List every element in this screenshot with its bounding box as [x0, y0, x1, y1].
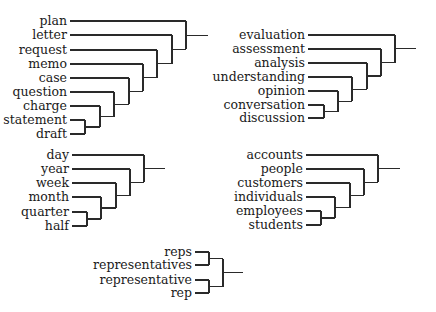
leaf-label: statement — [3, 112, 67, 127]
leaf-label: draft — [36, 126, 67, 141]
cluster-documents: planletterrequestmemocasequestioncharges… — [3, 13, 208, 141]
leaf-label: question — [13, 84, 67, 99]
leaf-label: plan — [39, 13, 67, 28]
cluster-people: accountspeoplecustomersindividualsemploy… — [234, 147, 400, 232]
leaf-label: memo — [28, 56, 67, 71]
leaf-label: customers — [237, 175, 303, 190]
leaf-label: evaluation — [239, 27, 305, 42]
leaf-label: request — [19, 42, 67, 57]
leaf-label: students — [249, 217, 303, 232]
leaf-label: understanding — [213, 69, 305, 84]
leaf-label: employees — [236, 203, 303, 218]
leaf-label: half — [45, 218, 71, 233]
leaf-label: representatives — [93, 257, 192, 272]
leaf-label: charge — [23, 98, 67, 113]
leaf-label: accounts — [246, 147, 303, 162]
leaf-label: month — [28, 189, 69, 204]
leaf-label: people — [261, 161, 303, 176]
dendrogram-canvas: planletterrequestmemocasequestioncharges… — [0, 0, 436, 312]
leaf-label: letter — [32, 27, 67, 42]
cluster-time: dayyearweekmonthquarterhalf — [21, 147, 165, 233]
cluster-reps: repsrepresentativesrepresentativerep — [93, 244, 243, 300]
leaf-label: assessment — [232, 41, 305, 56]
leaf-label: analysis — [254, 55, 305, 70]
leaf-label: year — [40, 161, 69, 176]
leaf-label: quarter — [21, 204, 69, 219]
cluster-analysis: evaluationassessmentanalysisunderstandin… — [213, 27, 416, 125]
leaf-label: discussion — [239, 110, 305, 125]
leaf-label: day — [46, 147, 69, 162]
leaf-label: case — [39, 70, 67, 85]
leaf-label: rep — [171, 285, 192, 300]
leaf-label: week — [36, 175, 69, 190]
leaf-label: opinion — [258, 83, 305, 98]
leaf-label: individuals — [234, 189, 303, 204]
